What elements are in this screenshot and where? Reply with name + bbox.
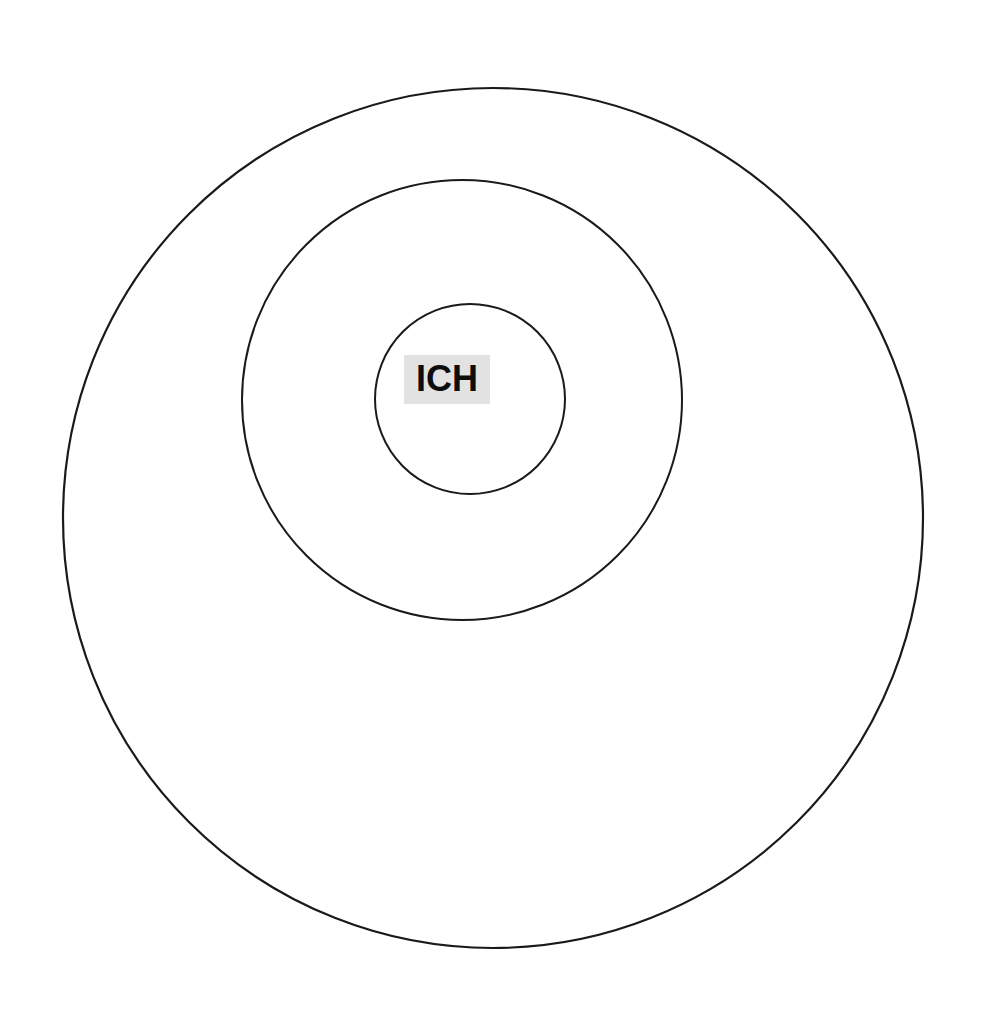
- center-label-text: ICH: [416, 361, 478, 399]
- concentric-circles-svg: [0, 0, 987, 1024]
- center-label-highlight: ICH: [404, 355, 490, 404]
- canvas-background: [0, 0, 987, 1024]
- diagram-canvas: ICH: [0, 0, 987, 1024]
